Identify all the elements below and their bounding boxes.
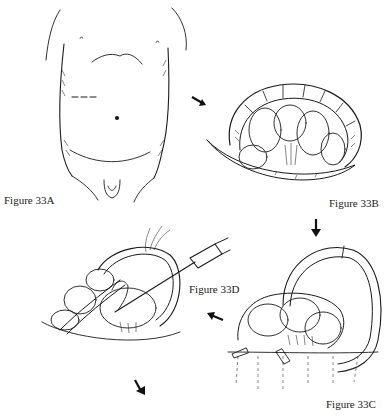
- figure-33b-bowel-illustration: [205, 75, 380, 195]
- figure-33c-retraction-illustration: [228, 240, 383, 390]
- figure-33b-label: Figure 33B: [329, 197, 379, 209]
- figure-33c-label: Figure 33C: [326, 398, 376, 410]
- figure-33a-torso-illustration: [0, 0, 200, 210]
- figure-33a-label: Figure 33A: [4, 194, 54, 206]
- figure-33d-label: Figure 33D: [189, 283, 239, 295]
